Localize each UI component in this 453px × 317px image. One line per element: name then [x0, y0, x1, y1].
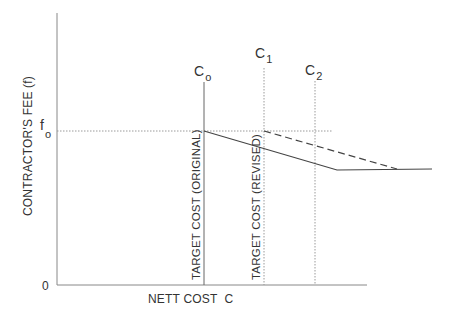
c2-symbol: C	[305, 62, 315, 78]
y-axis-label: CONTRACTOR'S FEE (f)	[21, 76, 35, 216]
c0-symbol: C	[194, 63, 204, 79]
original-fee-curve	[204, 131, 432, 170]
c2-subscript: 2	[316, 70, 322, 82]
c0-subscript: o	[205, 71, 211, 83]
revised-fee-curve	[264, 131, 397, 169]
target-cost-original-label: TARGET COST (ORIGINAL)	[190, 129, 202, 280]
fee-level-symbol: f	[40, 117, 44, 133]
target-cost-revised-label: TARGET COST (REVISED)	[250, 134, 262, 280]
c1-subscript: 1	[266, 53, 272, 65]
fee-level-subscript: o	[45, 128, 51, 140]
x-axis-label: NETT COST C	[148, 292, 233, 306]
c0-label: Co	[194, 63, 211, 83]
origin-label: 0	[42, 279, 49, 293]
fee-level-label: fo	[40, 117, 51, 140]
target-cost-diagram: CONTRACTOR'S FEE (f) 0 fo Co C1 C2 TARGE…	[0, 0, 453, 317]
c1-symbol: C	[255, 45, 265, 61]
c1-label: C1	[255, 45, 272, 65]
c2-label: C2	[305, 62, 322, 82]
